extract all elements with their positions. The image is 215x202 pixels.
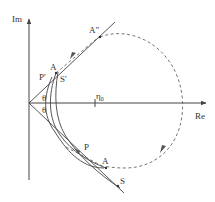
label-a-lower: A [102,156,109,166]
dashed-circle-arc [100,34,183,168]
upper-arrow-icon [70,52,76,59]
label-theta-lower: θ [42,105,46,115]
label-p-lower: P [84,142,89,152]
im-axis-label: Im [12,14,22,24]
eta0-marker: η0 [95,91,104,107]
label-p-prime: P′ [39,72,46,82]
dashed-upper-segment [56,36,100,73]
nyquist-diagram: Im Re η0 A″ A P′ S′ θ θ P A [0,0,215,202]
re-axis-label: Re [195,111,205,121]
contour-curves [46,72,120,188]
eta0-label: η0 [96,91,104,102]
label-a-double-prime: A″ [89,25,99,35]
upper-tangent-line [29,22,115,103]
label-s-lower: S [120,176,125,186]
label-a-upper: A [50,62,57,72]
curve-s [56,72,120,188]
label-s-prime: S′ [60,74,67,84]
label-theta-upper: θ [42,93,46,103]
lower-tangent-line [29,103,124,193]
